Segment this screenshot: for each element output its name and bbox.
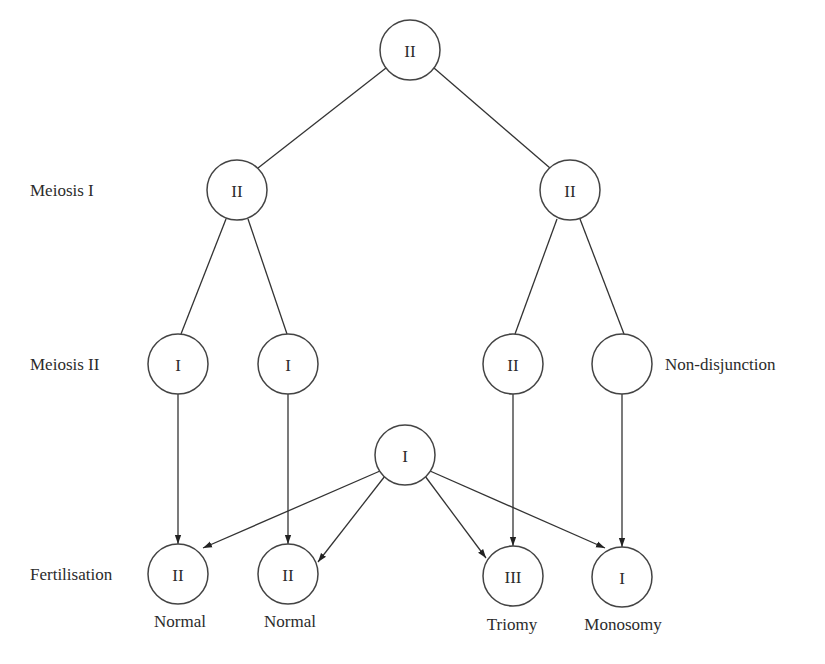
outcome-label-1: Normal — [154, 612, 206, 631]
node-meiosis2-b: I — [258, 334, 318, 394]
non-disjunction-annotation: Non-disjunction — [665, 355, 776, 374]
node-zygote-1: II — [148, 544, 208, 604]
outcome-label-4: Monosomy — [584, 615, 662, 634]
node-meiosis1-left: II — [207, 160, 267, 220]
edge-parent-m1a — [258, 68, 386, 168]
node-label: II — [404, 42, 416, 61]
node-label: I — [285, 356, 291, 375]
stage-label-meiosis-1: Meiosis I — [30, 181, 94, 200]
node-zygote-3: III — [483, 546, 543, 606]
node-label: II — [172, 566, 184, 585]
node-meiosis2-a: I — [148, 334, 208, 394]
edge-m1b-m2d — [580, 219, 624, 334]
arrow-gamete-f4 — [430, 471, 605, 548]
node-fertilising-gamete: I — [375, 425, 435, 485]
outcome-label-2: Normal — [264, 612, 316, 631]
edge-parent-m1b — [434, 68, 550, 168]
stage-labels: Meiosis I Meiosis II Fertilisation — [30, 181, 113, 584]
node-meiosis2-d-empty — [592, 334, 652, 394]
node-parent: II — [380, 20, 440, 80]
outcome-labels: Normal Normal Triomy Monosomy — [154, 612, 662, 634]
node-label: III — [505, 568, 522, 587]
node-label: II — [507, 356, 519, 375]
arrow-gamete-f1 — [203, 471, 380, 548]
edge-m1a-m2b — [248, 219, 287, 334]
node-label: II — [282, 566, 294, 585]
node-zygote-2: II — [258, 544, 318, 604]
arrow-gamete-f3 — [425, 476, 486, 558]
node-zygote-4: I — [592, 547, 652, 607]
edge-m1b-m2c — [515, 219, 557, 334]
stage-label-fertilisation: Fertilisation — [30, 565, 113, 584]
non-disjunction-diagram: Meiosis I Meiosis II Fertilisation II II… — [0, 0, 825, 664]
node-meiosis1-right: II — [540, 160, 600, 220]
arrow-gamete-f2 — [318, 476, 385, 562]
node-label: I — [402, 447, 408, 466]
edge-m1a-m2a — [181, 219, 226, 334]
node-label: II — [564, 182, 576, 201]
node-label: I — [619, 569, 625, 588]
stage-label-meiosis-2: Meiosis II — [30, 355, 100, 374]
outcome-label-3: Triomy — [487, 615, 538, 634]
node-label: I — [175, 356, 181, 375]
node-meiosis2-c: II — [483, 334, 543, 394]
node-label: II — [231, 182, 243, 201]
